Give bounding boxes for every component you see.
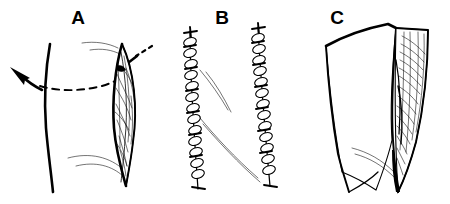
- panel-a-label: A: [71, 7, 85, 28]
- suture-knot-top-right-2: [258, 23, 259, 34]
- figure-root: A: [0, 0, 450, 204]
- panel-c-label: C: [330, 7, 344, 28]
- panel-b-label: B: [215, 7, 229, 28]
- suture-knot-top-left-2: [190, 27, 191, 38]
- surgical-illustration: A: [0, 0, 450, 204]
